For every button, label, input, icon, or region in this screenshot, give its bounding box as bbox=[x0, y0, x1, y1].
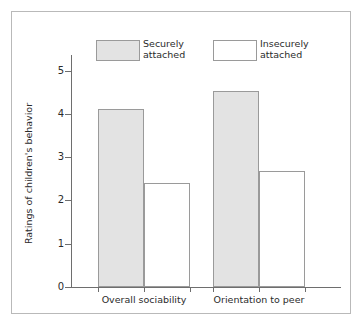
y-tick-label-3: 3 bbox=[44, 152, 64, 162]
legend-label-insecurely-attached: Insecurelyattached bbox=[260, 38, 309, 60]
y-tick-mark-4 bbox=[65, 114, 71, 115]
legend-label-securely-attached: Securelyattached bbox=[143, 38, 185, 60]
legend-label-insecurely-attached-line2: attached bbox=[260, 49, 302, 60]
plot-area: 5 4 3 2 1 0 Overall sociability Orientat… bbox=[0, 0, 363, 327]
y-tick-mark-5 bbox=[65, 71, 71, 72]
y-tick-label-2: 2 bbox=[44, 195, 64, 205]
x-tick-mark-a bbox=[98, 287, 99, 292]
y-tick-mark-1 bbox=[65, 244, 71, 245]
x-tick-mark-b bbox=[144, 287, 145, 292]
bar-secure-orientation-to-peer[interactable] bbox=[213, 91, 259, 287]
bar-insecure-orientation-to-peer[interactable] bbox=[259, 171, 305, 287]
legend-item-insecurely-attached[interactable]: Insecurelyattached bbox=[213, 38, 309, 61]
legend-label-securely-attached-line2: attached bbox=[143, 49, 185, 60]
legend-swatch-insecurely-attached-icon bbox=[213, 40, 257, 61]
legend-label-securely-attached-line1: Securely bbox=[143, 38, 184, 49]
y-axis-line bbox=[71, 55, 72, 288]
y-axis-title: Ratings of children's behavior bbox=[23, 84, 34, 264]
bar-insecure-overall-sociability[interactable] bbox=[144, 183, 190, 287]
x-tick-mark-e bbox=[259, 287, 260, 292]
x-tick-mark-d bbox=[213, 287, 214, 292]
x-category-label-1: Orientation to peer bbox=[179, 294, 339, 305]
legend-item-securely-attached[interactable]: Securelyattached bbox=[96, 38, 185, 61]
y-tick-mark-3 bbox=[65, 157, 71, 158]
chart-legend: Securelyattached Insecurelyattached bbox=[96, 38, 346, 68]
chart-figure: 5 4 3 2 1 0 Overall sociability Orientat… bbox=[0, 0, 363, 327]
y-tick-mark-0 bbox=[65, 287, 71, 288]
x-tick-mark-c bbox=[190, 287, 191, 292]
y-tick-mark-2 bbox=[65, 200, 71, 201]
y-tick-label-1: 1 bbox=[44, 239, 64, 249]
x-axis-line bbox=[71, 287, 341, 288]
legend-swatch-securely-attached-icon bbox=[96, 40, 140, 61]
y-tick-label-4: 4 bbox=[44, 109, 64, 119]
y-tick-label-5: 5 bbox=[44, 66, 64, 76]
y-tick-label-0: 0 bbox=[44, 282, 64, 292]
x-tick-mark-f bbox=[305, 287, 306, 292]
legend-label-insecurely-attached-line1: Insecurely bbox=[260, 38, 309, 49]
bar-secure-overall-sociability[interactable] bbox=[98, 109, 144, 287]
